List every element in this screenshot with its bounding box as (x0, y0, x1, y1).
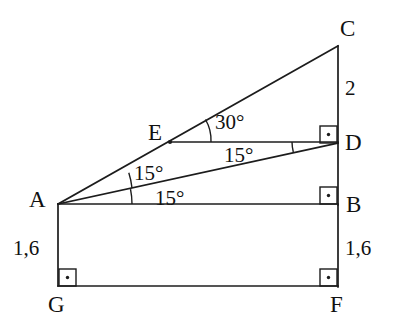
point-label-G: G (48, 292, 65, 318)
angle-arc-15-lower-at-A (131, 189, 133, 204)
right-angle-mark-G (59, 269, 76, 286)
angle-arc-15-at-D (292, 142, 293, 152)
right-angle-mark-D (320, 126, 337, 143)
right-angle-mark-F (320, 269, 337, 286)
segment-AC (58, 46, 338, 204)
point-label-E: E (148, 120, 162, 146)
segment-AD (58, 143, 338, 204)
point-label-D: D (345, 130, 362, 156)
angle-label-15-upper-at-A: 15° (134, 161, 163, 186)
geometry-diagram: A B C D E F G 30° 15° 15° 15° 2 1,6 1,6 (0, 0, 396, 335)
point-label-C: C (340, 16, 355, 42)
angle-label-15-lower-at-A: 15° (155, 186, 184, 211)
angle-label-30-at-E: 30° (215, 110, 244, 135)
point-label-F: F (330, 292, 343, 318)
angle-arc-30-at-E (206, 120, 212, 143)
point-label-A: A (29, 187, 46, 213)
angle-label-15-at-D: 15° (224, 143, 253, 168)
point-label-B: B (346, 192, 361, 218)
right-angle-mark-B (320, 187, 337, 204)
diagram-canvas (0, 0, 396, 335)
length-label-AG: 1,6 (13, 236, 39, 261)
point-marker-E (168, 140, 172, 144)
length-label-CD: 2 (345, 76, 356, 101)
angle-arc-15-upper-at-A (129, 173, 132, 188)
length-label-BF: 1,6 (345, 236, 371, 261)
